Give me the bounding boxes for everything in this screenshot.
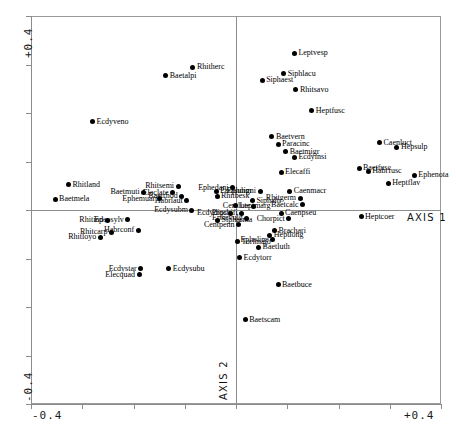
x-axis-title: AXIS 1 — [407, 212, 447, 223]
data-point-label: Heptfusc — [316, 107, 345, 115]
data-point[interactable] — [279, 170, 284, 175]
y-axis-title: AXIS 2 — [218, 360, 229, 400]
data-point[interactable] — [357, 166, 362, 171]
x-tick — [134, 404, 135, 409]
data-point-label: Ecdyveno — [97, 118, 129, 126]
data-point-label: Ephedani — [198, 184, 228, 192]
data-point-label: Ecdytorr — [244, 254, 272, 262]
data-point-label: Heptlong — [274, 231, 304, 239]
data-point[interactable] — [359, 214, 364, 219]
data-point-label: Ecdysubu — [173, 265, 205, 273]
x-tick — [441, 404, 442, 409]
data-point[interactable] — [386, 181, 391, 186]
data-point-label: Baetalpi — [170, 72, 197, 80]
data-point[interactable] — [366, 169, 371, 174]
y-tick — [26, 404, 31, 405]
data-point-label: Baetbuce — [282, 281, 312, 289]
y-tick — [26, 210, 31, 211]
data-point-label: Rhitind — [79, 216, 103, 224]
data-point[interactable] — [243, 317, 248, 322]
data-point-label: Elecquad — [105, 271, 135, 279]
data-point-label: Chorpict — [257, 215, 285, 223]
x-tick — [236, 404, 237, 409]
data-point[interactable] — [98, 235, 103, 240]
x-tick — [82, 404, 83, 409]
y-tick — [26, 113, 31, 114]
data-point-label: Caenmacr — [294, 187, 326, 195]
x-tick — [185, 404, 186, 409]
data-point[interactable] — [258, 189, 263, 194]
data-point[interactable] — [292, 155, 297, 160]
x-tick — [339, 404, 340, 409]
data-point[interactable] — [412, 173, 417, 178]
data-point-label: Rhitloyo — [68, 233, 96, 241]
data-point-label: Habrlaut — [155, 197, 183, 205]
data-point[interactable] — [276, 142, 281, 147]
data-point[interactable] — [215, 194, 220, 199]
y-axis-min-label: -0.4 — [22, 372, 35, 403]
data-point-label: Leptvesp — [298, 49, 327, 57]
data-point-label: Rhitsavo — [300, 86, 328, 94]
data-point[interactable] — [109, 230, 114, 235]
data-point-label: Ecdysubm — [154, 206, 188, 214]
y-axis-max-label: +0.4 — [22, 28, 35, 59]
data-point-label: Rhitland — [72, 181, 100, 189]
y-tick — [26, 162, 31, 163]
data-point-label: Baetmela — [59, 195, 89, 203]
y-tick — [26, 307, 31, 308]
x-tick — [390, 404, 391, 409]
data-point-label: Elecaffi — [285, 168, 310, 176]
data-point-label: Siphaest — [266, 76, 293, 84]
data-point-label: Ecdyinsi — [298, 153, 326, 161]
y-tick — [26, 356, 31, 357]
y-tick — [26, 16, 31, 17]
data-point[interactable] — [292, 51, 297, 56]
data-point[interactable] — [276, 282, 281, 287]
data-point[interactable] — [105, 218, 110, 223]
data-point-label: Hepsulp — [401, 143, 428, 151]
data-point-label: Ephenota — [418, 171, 448, 179]
x-tick — [287, 404, 288, 409]
data-point-label: Rhitherc — [197, 63, 225, 71]
data-point[interactable] — [53, 197, 58, 202]
data-point[interactable] — [260, 78, 265, 83]
data-point-label: Habrfusc — [372, 167, 401, 175]
data-point-label: Ephoigni — [227, 187, 256, 195]
data-point-label: Baetscam — [249, 316, 280, 324]
data-point-label: Baetluth — [263, 243, 290, 251]
data-point[interactable] — [176, 184, 181, 189]
data-point-label: Heptflav — [392, 179, 420, 187]
data-point[interactable] — [256, 245, 261, 250]
y-tick — [26, 65, 31, 66]
x-axis-min-label: -0.4 — [32, 409, 63, 422]
data-point-label: Heptcoer — [365, 213, 394, 221]
data-point-label: Centpenn — [204, 221, 235, 229]
y-tick — [26, 259, 31, 260]
ordination-scatter-plot: -0.4 +0.4 +0.4 -0.4 AXIS 1 AXIS 2 Baetal… — [0, 0, 456, 437]
data-point[interactable] — [136, 228, 141, 233]
x-axis-max-label: +0.4 — [404, 409, 435, 422]
data-point-label: Ephemuar — [122, 195, 155, 203]
